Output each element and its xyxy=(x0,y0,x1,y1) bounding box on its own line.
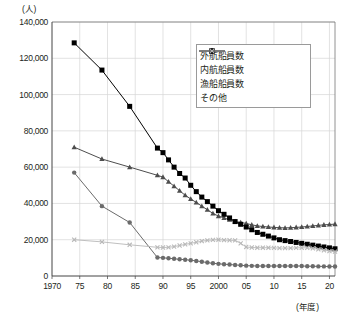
legend-item-2: 漁船船員数 xyxy=(200,76,306,90)
series-0 xyxy=(72,170,337,268)
legend-label-3: その他 xyxy=(200,91,226,104)
legend-label-2: 漁船船員数 xyxy=(200,77,244,90)
legend-label-1: 内航船員数 xyxy=(200,63,244,76)
legend-marker-x-icon xyxy=(197,45,227,57)
legend-item-1: 内航船員数 xyxy=(200,62,306,76)
legend-item-3: その他 xyxy=(200,90,306,104)
chart-container: (人) (年度) 140,000120,000100,00080,00060,0… xyxy=(0,0,342,317)
series-1 xyxy=(72,144,338,230)
chart-legend: 外航船員数 内航船員数 漁船船員数 その他 xyxy=(196,44,311,108)
